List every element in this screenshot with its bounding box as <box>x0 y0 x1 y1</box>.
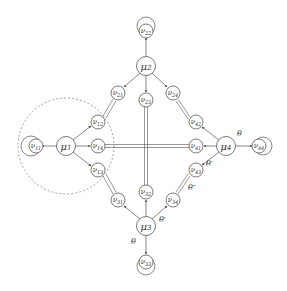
node-nu33[interactable]: ν33 <box>139 255 153 269</box>
node-nu24[interactable]: ν24 <box>166 86 180 100</box>
node-nu21[interactable]: ν21 <box>111 86 125 100</box>
node-nu22[interactable]: ν22 <box>139 24 153 38</box>
node-mu3[interactable]: μ3 <box>137 217 156 236</box>
node-nu34[interactable]: ν34 <box>166 193 180 207</box>
node-nu13[interactable]: ν13 <box>91 163 105 177</box>
node-nu44[interactable]: ν44 <box>252 139 266 153</box>
node-nu12[interactable]: ν12 <box>91 115 105 129</box>
theta-label-mu4: θ <box>237 129 242 138</box>
theta-label-mu3: θ <box>131 237 136 246</box>
node-nu31[interactable]: ν31 <box>111 193 125 207</box>
node-nu23[interactable]: ν23 <box>139 93 153 107</box>
node-nu11[interactable]: ν11 <box>29 139 43 153</box>
node-nu41[interactable]: ν41 <box>189 139 203 153</box>
theta-double-prime-label: θ″ <box>188 183 196 192</box>
node-nu42[interactable]: ν42 <box>189 115 203 129</box>
node-nu14[interactable]: ν14 <box>91 139 105 153</box>
theta-prime-label-mu4: θ′ <box>206 159 213 168</box>
node-mu1[interactable]: μ1 <box>57 137 76 156</box>
node-mu2[interactable]: μ2 <box>137 57 156 76</box>
theta-prime-label-mu3: θ′ <box>159 215 166 224</box>
network-diagram: μ1 μ2 μ3 μ4 ν11 ν12 ν14 ν13 ν22 ν21 ν23 … <box>0 0 287 291</box>
node-mu4[interactable]: μ4 <box>217 137 236 156</box>
node-nu43[interactable]: ν43 <box>189 163 203 177</box>
node-nu32[interactable]: ν32 <box>139 185 153 199</box>
inter-cluster-links <box>103 99 190 194</box>
